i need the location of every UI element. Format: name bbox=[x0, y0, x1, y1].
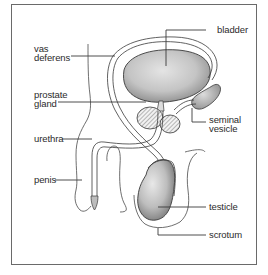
label-scrotum: scrotum bbox=[209, 230, 242, 240]
label-seminal-vesicle-line2: vesicle bbox=[209, 124, 237, 134]
label-penis: penis bbox=[34, 175, 56, 185]
label-vas-deferens-line2: deferens bbox=[34, 53, 70, 63]
label-prostate-gland-line2: gland bbox=[34, 99, 57, 109]
label-urethra: urethra bbox=[34, 134, 63, 144]
label-bladder: bladder bbox=[217, 25, 248, 35]
label-testicle: testicle bbox=[209, 202, 238, 212]
testicle-organ bbox=[138, 160, 176, 221]
prostate-gland-organ bbox=[137, 107, 180, 133]
penis-tip bbox=[91, 196, 98, 210]
